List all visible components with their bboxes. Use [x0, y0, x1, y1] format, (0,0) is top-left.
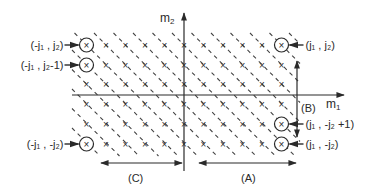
grid-point: ×	[84, 60, 90, 71]
grid-point: ×	[123, 40, 129, 51]
grid-point: ×	[220, 139, 226, 150]
grid-point: ×	[201, 119, 207, 130]
grid-point: ×	[240, 79, 246, 90]
grid-point: ×	[162, 79, 168, 90]
grid-point: ×	[123, 139, 129, 150]
grid-point: ×	[84, 139, 90, 150]
point-label: (-j₁ , -j₂)	[27, 138, 64, 150]
grid-point: ×	[201, 40, 207, 51]
circled-point-top-left: ×(-j₁ , j₂)	[30, 38, 93, 52]
grid-point: ×	[103, 40, 109, 51]
grid-point: ×	[103, 119, 109, 130]
grid-point: ×	[279, 99, 285, 110]
grid-point: ×	[201, 79, 207, 90]
grid-point: ×	[123, 119, 129, 130]
circled-point-bottom-right: ×(j₁ , -j₂)	[275, 137, 339, 151]
diagonal-line	[289, 33, 300, 44]
point-label: (-j₁ , j₂)	[30, 39, 63, 51]
grid-point: ×	[259, 79, 265, 90]
angular-momentum-coupling-diagram: ××××××××××××××××××××××××××××××××××××××××…	[0, 0, 380, 189]
diagonal-line	[250, 33, 300, 83]
grid-point: ×	[123, 60, 129, 71]
grid-point: ×	[240, 119, 246, 130]
grid-point: ×	[220, 40, 226, 51]
grid-point: ×	[103, 60, 109, 71]
grid-point: ×	[259, 60, 265, 71]
grid-point: ×	[84, 119, 90, 130]
grid-point: ×	[123, 99, 129, 110]
grid-point: ×	[240, 99, 246, 110]
circled-point-bottom-left: ×(-j₁ , -j₂)	[27, 137, 94, 151]
grid-point: ×	[220, 99, 226, 110]
grid-point: ×	[142, 139, 148, 150]
grid-point: ×	[259, 40, 265, 51]
point-label: (j₁ , -j₂)	[306, 138, 339, 150]
region-a-label: (A)	[241, 172, 256, 184]
grid-point: ×	[103, 99, 109, 110]
circled-point-top-right: ×(j₁ , j₂)	[275, 38, 335, 52]
grid-point: ×	[279, 60, 285, 71]
grid-point: ×	[259, 119, 265, 130]
grid-point: ×	[162, 99, 168, 110]
grid-point: ×	[84, 40, 90, 51]
grid-point: ×	[259, 139, 265, 150]
grid-point: ×	[279, 40, 285, 51]
grid-point: ×	[279, 79, 285, 90]
grid-point: ×	[123, 79, 129, 90]
m2-axis-label: m2	[160, 11, 175, 26]
grid-point: ×	[259, 99, 265, 110]
grid-point: ×	[142, 119, 148, 130]
grid-point: ×	[142, 79, 148, 90]
grid-point: ×	[201, 139, 207, 150]
grid-point: ×	[162, 139, 168, 150]
grid-point: ×	[201, 60, 207, 71]
grid-point: ×	[162, 60, 168, 71]
grid-point: ×	[103, 79, 109, 90]
grid-point: ×	[103, 139, 109, 150]
point-label: (j₁ , j₂)	[306, 39, 335, 51]
grid-point: ×	[162, 119, 168, 130]
grid-point: ×	[279, 119, 285, 130]
grid-point: ×	[240, 60, 246, 71]
grid-point: ×	[162, 40, 168, 51]
m1-axis-label: m1	[326, 97, 341, 112]
point-label: (-j₁ , j₂-1)	[21, 59, 64, 71]
region-c-label: (C)	[128, 172, 143, 184]
region-b-label: (B)	[301, 102, 316, 114]
grid-point: ×	[279, 139, 285, 150]
grid-point: ×	[142, 99, 148, 110]
grid-point: ×	[220, 119, 226, 130]
grid-point: ×	[240, 139, 246, 150]
grid-point: ×	[240, 40, 246, 51]
grid-point: ×	[84, 79, 90, 90]
circled-point-second-right-bottom: ×(j₁ , -j₂ +1)	[275, 117, 355, 131]
grid-point: ×	[142, 60, 148, 71]
diagonal-line	[72, 109, 120, 157]
grid-point: ×	[220, 60, 226, 71]
grid-point: ×	[201, 99, 207, 110]
grid-point: ×	[84, 99, 90, 110]
point-label: (j₁ , -j₂ +1)	[306, 118, 355, 130]
grid-point: ×	[220, 79, 226, 90]
circled-point-second-left: ×(-j₁ , j₂-1)	[21, 58, 94, 72]
grid-point: ×	[142, 40, 148, 51]
